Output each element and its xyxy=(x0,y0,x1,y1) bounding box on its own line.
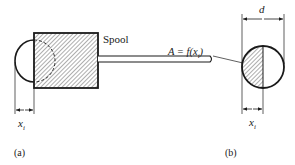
panel-label-b: (b) xyxy=(225,148,237,158)
spool-label: Spool xyxy=(103,34,129,45)
open-area-hatched xyxy=(242,46,263,88)
area-leader-line xyxy=(213,56,243,63)
diameter-label: d xyxy=(259,4,265,15)
panel-label-a: (a) xyxy=(14,148,25,158)
figure-b-orifice-diagram xyxy=(213,14,284,114)
xi-label-a: xi xyxy=(18,118,25,132)
xi-label-b: xi xyxy=(249,117,256,131)
diagram-canvas xyxy=(0,0,295,165)
area-formula-label: A = f(xi) xyxy=(168,47,203,60)
spool-land-semicircle xyxy=(15,40,34,82)
